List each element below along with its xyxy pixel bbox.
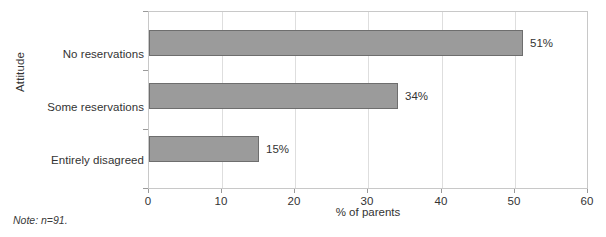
figure-note: Note: n=91. [13,214,68,226]
category-label-0: No reservations [20,48,144,60]
x-tick-mark-30 [367,189,368,193]
bar-entirely-disagreed[interactable] [149,136,259,162]
note-prefix: Note: [13,214,41,226]
x-tick-mark-60 [587,189,588,193]
value-label-0: 51% [530,30,553,56]
x-tick-mark-10 [221,189,222,193]
value-label-2: 15% [266,136,289,162]
category-label-1: Some reservations [20,101,144,113]
plot-area: 51% 34% 15% [148,11,588,189]
x-tick-mark-20 [294,189,295,193]
note-sample-size: n=91. [41,214,68,226]
bar-no-reservations[interactable] [149,30,523,56]
x-axis-title: % of parents [148,206,588,218]
x-tick-mark-40 [441,189,442,193]
bar-some-reservations[interactable] [149,83,398,109]
x-tick-mark-0 [148,189,149,193]
category-label-2: Entirely disagreed [20,154,144,166]
x-tick-mark-50 [514,189,515,193]
value-label-1: 34% [405,83,428,109]
category-axis-labels: No reservations Some reservations Entire… [20,12,144,188]
bar-chart-figure: Attitude No reservations Some reservatio… [0,0,606,237]
